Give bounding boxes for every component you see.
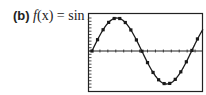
data-point-marker xyxy=(174,78,177,81)
data-point-marker xyxy=(196,37,199,40)
data-point-marker xyxy=(163,82,166,85)
data-point-marker xyxy=(107,21,110,24)
data-point-marker xyxy=(157,78,160,81)
data-point-marker xyxy=(96,38,99,41)
data-point-marker xyxy=(168,82,171,85)
data-point-marker xyxy=(118,17,121,20)
data-point-marker xyxy=(135,38,138,41)
data-point-marker xyxy=(113,17,116,20)
data-point-marker xyxy=(129,28,132,31)
data-point-marker xyxy=(102,28,105,31)
data-point-marker xyxy=(90,49,93,52)
data-point-marker xyxy=(185,60,188,63)
data-point-marker xyxy=(190,49,193,52)
data-point-marker xyxy=(124,21,127,24)
data-point-marker xyxy=(140,50,143,53)
data-point-marker xyxy=(146,61,149,64)
data-point-marker xyxy=(179,70,182,73)
graph-window xyxy=(0,0,206,95)
data-point-marker xyxy=(151,71,154,74)
